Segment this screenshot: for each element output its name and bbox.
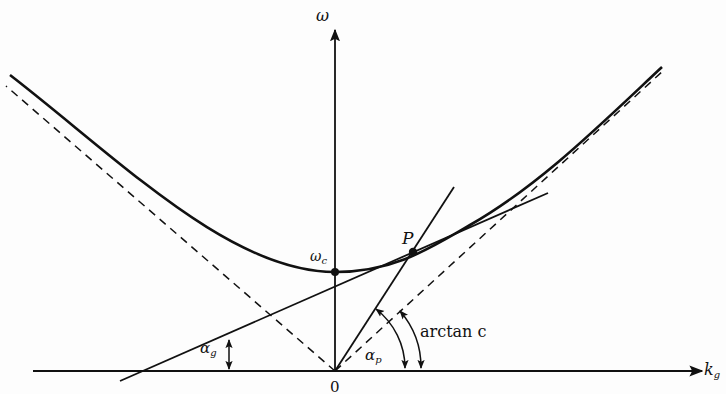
dispersion-diagram: ω kg 0 ωc P αg αp arctan c <box>0 0 726 394</box>
alpha-p-label: αp <box>365 348 382 365</box>
arctan-c-arc <box>400 311 421 368</box>
k-axis-label: kg <box>704 362 720 380</box>
origin-label: 0 <box>330 380 340 394</box>
group-velocity-tangent <box>120 193 548 381</box>
point-p <box>409 248 417 256</box>
cutoff-frequency-label: ωc <box>310 249 327 266</box>
omega-axis-label: ω <box>316 8 329 24</box>
diagram-canvas <box>0 0 726 394</box>
dispersion-curve <box>10 67 662 272</box>
alpha-g-label: αg <box>200 341 217 358</box>
point-p-label: P <box>402 230 413 247</box>
left-asymptote <box>6 86 335 371</box>
arctan-c-label: arctan c <box>420 324 486 340</box>
right-asymptote <box>335 70 664 371</box>
cutoff-point <box>331 268 339 276</box>
